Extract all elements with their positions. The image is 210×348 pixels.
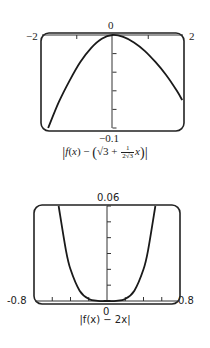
- graph-1-ymax-label: 0: [108, 19, 114, 31]
- graph-1-caption: |f(x) − (√3 + 12√3x)|: [0, 144, 210, 161]
- graph-2-xmax-label: 0.8: [178, 295, 194, 306]
- abs-bar-right: |: [145, 144, 148, 160]
- graph-1-xmin-label: −2: [26, 30, 38, 42]
- graph-1: −2 2 0 −0.1 |f(x) − (√3 + 12√3x)|: [0, 0, 210, 175]
- graph-2: -0.8 0.8 0.06 0 |f(x) − 2x|: [0, 175, 210, 348]
- graph-2-ymax-label: 0.06: [97, 192, 119, 203]
- graph-2-xmin-label: -0.8: [7, 295, 27, 306]
- graph-2-caption: |f(x) − 2x|: [0, 314, 210, 325]
- fraction: 12√3: [121, 145, 134, 160]
- graph-1-ymin-label: −0.1: [99, 132, 119, 144]
- graph-1-xmax-label: 2: [189, 30, 195, 42]
- graph-1-curve: [48, 35, 182, 128]
